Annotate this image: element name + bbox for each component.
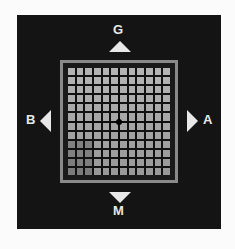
grid-cell <box>94 113 101 120</box>
grid-cell <box>163 77 170 84</box>
grid-cell <box>68 86 75 93</box>
grid-cell <box>120 132 127 139</box>
grid-cell <box>85 159 92 166</box>
arrow-down-icon <box>109 192 131 203</box>
grid-cell <box>94 141 101 148</box>
grid-cell <box>77 86 84 93</box>
grid-cell <box>155 168 162 175</box>
grid-cell <box>120 159 127 166</box>
grid-cell <box>85 150 92 157</box>
grid-cell <box>155 150 162 157</box>
grid-cell <box>137 123 144 130</box>
grid-cell <box>68 132 75 139</box>
grid-cell <box>94 95 101 102</box>
grid-cell <box>85 141 92 148</box>
grid-cell <box>94 132 101 139</box>
grid-cell <box>85 77 92 84</box>
grid-cell <box>77 168 84 175</box>
grid-cell <box>94 150 101 157</box>
grid-cell <box>129 150 136 157</box>
grid-cell <box>77 159 84 166</box>
grid-cell <box>155 104 162 111</box>
grid-cell <box>137 77 144 84</box>
grid-cell <box>163 95 170 102</box>
grid-cell <box>146 77 153 84</box>
grid-cell <box>111 159 118 166</box>
grid-cell <box>103 113 110 120</box>
grid-cell <box>155 95 162 102</box>
grid-cell <box>129 141 136 148</box>
grid-cell <box>103 77 110 84</box>
grid-cell <box>68 141 75 148</box>
arrow-up-icon <box>109 41 131 52</box>
grid-cell <box>103 123 110 130</box>
grid-cell <box>77 95 84 102</box>
label-left: B <box>26 113 35 126</box>
grid-cell <box>68 68 75 75</box>
grid-cell <box>146 104 153 111</box>
grid-cell <box>68 104 75 111</box>
grid-cell <box>94 104 101 111</box>
grid-cell <box>163 141 170 148</box>
grid-cell <box>94 68 101 75</box>
grid-cell <box>85 95 92 102</box>
grid-cell <box>94 86 101 93</box>
grid-cell <box>137 68 144 75</box>
grid-cell <box>163 68 170 75</box>
grid-cell <box>146 150 153 157</box>
grid-cell <box>120 141 127 148</box>
grid-cell <box>68 168 75 175</box>
grid-cell <box>94 168 101 175</box>
label-top: G <box>113 23 123 36</box>
grid-cell <box>77 132 84 139</box>
grid-cell <box>85 86 92 93</box>
grid-cell <box>77 141 84 148</box>
grid-cell <box>163 168 170 175</box>
grid-cell <box>155 113 162 120</box>
grid-cell <box>146 168 153 175</box>
grid-cell <box>103 132 110 139</box>
grid-cell <box>77 113 84 120</box>
grid-cell <box>146 141 153 148</box>
grid-cell <box>137 104 144 111</box>
grid-cell <box>155 77 162 84</box>
grid-cell <box>120 77 127 84</box>
grid-cell <box>103 95 110 102</box>
grid-cell <box>68 77 75 84</box>
grid-cell <box>94 159 101 166</box>
center-dot-icon <box>116 119 122 125</box>
grid-cell <box>137 95 144 102</box>
grid-cell <box>85 123 92 130</box>
grid-cell <box>103 104 110 111</box>
grid-cell <box>155 141 162 148</box>
grid-cell <box>129 95 136 102</box>
grid-cell <box>137 150 144 157</box>
grid-cell <box>77 77 84 84</box>
grid-cell <box>146 159 153 166</box>
grid-cell <box>111 95 118 102</box>
grid-cell <box>77 123 84 130</box>
arrow-left-icon <box>40 110 51 132</box>
grid-cell <box>163 104 170 111</box>
grid-cell <box>103 159 110 166</box>
grid-cell <box>129 159 136 166</box>
grid-cell <box>155 68 162 75</box>
grid-cell <box>94 123 101 130</box>
grid-cell <box>68 159 75 166</box>
grid-cell <box>163 113 170 120</box>
grid-cell <box>111 104 118 111</box>
grid-cell <box>129 86 136 93</box>
grid-cell <box>120 68 127 75</box>
grid-cell <box>146 113 153 120</box>
grid-cell <box>137 141 144 148</box>
grid-cell <box>120 168 127 175</box>
grid-cell <box>85 113 92 120</box>
grid-cell <box>77 68 84 75</box>
grid-cell <box>68 123 75 130</box>
arrow-right-icon <box>187 110 198 132</box>
grid-cell <box>137 132 144 139</box>
grid-cell <box>163 159 170 166</box>
grid-cell <box>103 86 110 93</box>
grid-cell <box>111 141 118 148</box>
grid-cell <box>111 168 118 175</box>
